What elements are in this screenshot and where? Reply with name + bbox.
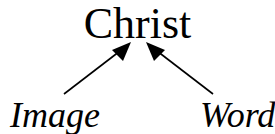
arrow-word-to-christ-icon <box>146 42 213 94</box>
node-word: Word <box>200 94 275 134</box>
node-image: Image <box>10 94 100 134</box>
arrow-image-to-christ-icon <box>64 42 131 94</box>
